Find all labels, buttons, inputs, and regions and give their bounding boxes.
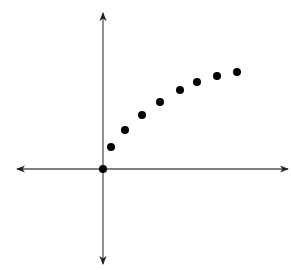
data-point <box>121 126 129 134</box>
data-point <box>233 68 241 76</box>
data-points <box>99 68 241 173</box>
data-point <box>99 165 107 173</box>
data-point <box>193 78 201 86</box>
data-point <box>107 143 115 151</box>
data-point <box>213 72 221 80</box>
data-point <box>138 111 146 119</box>
data-point <box>176 86 184 94</box>
data-point <box>156 98 164 106</box>
scatter-chart <box>0 0 291 270</box>
